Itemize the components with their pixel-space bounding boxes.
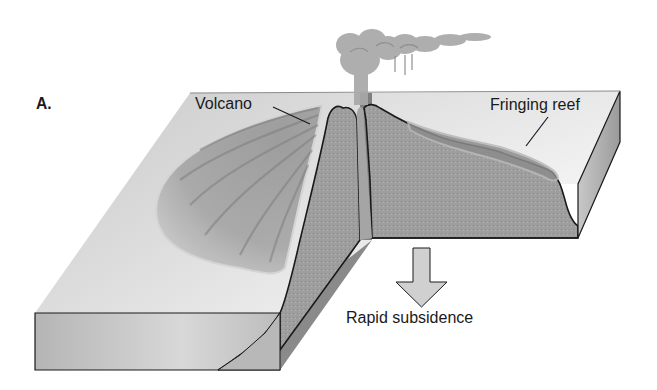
label-volcano: Volcano	[195, 95, 252, 113]
label-fringing-reef: Fringing reef	[490, 96, 580, 114]
panel-letter: A.	[36, 94, 52, 114]
subsidence-arrow-icon	[396, 248, 447, 307]
diagram-stage: A. Volcano Fringing reef Rapid subsidenc…	[0, 0, 657, 390]
block-diagram	[0, 0, 657, 390]
label-rapid-subsidence: Rapid subsidence	[346, 309, 473, 327]
